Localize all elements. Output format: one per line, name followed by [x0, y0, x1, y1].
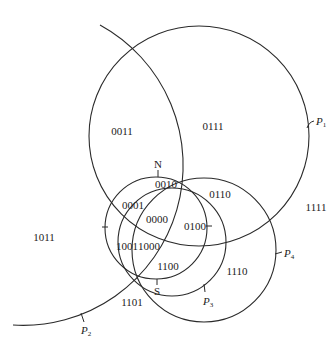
region-0001: 0001	[122, 199, 144, 211]
venn-region-diagram: P1 P2 P3 P4 N S 0011 0111 0010 0110 1111…	[0, 0, 333, 346]
region-0100: 0100	[184, 220, 207, 232]
region-1011: 1011	[33, 231, 55, 243]
label-p4: P4	[283, 247, 295, 261]
label-north: N	[154, 158, 162, 170]
region-1000: 1000	[138, 240, 161, 252]
region-1100: 1100	[157, 260, 179, 272]
region-0110: 0110	[209, 188, 231, 200]
region-1110: 1110	[226, 265, 248, 277]
region-0010: 0010	[155, 178, 178, 190]
region-0000: 0000	[146, 213, 169, 225]
label-p3: P3	[202, 295, 214, 309]
region-1101: 1101	[121, 296, 143, 308]
region-0011: 0011	[111, 125, 133, 137]
label-south: S	[154, 285, 160, 297]
region-0111: 0111	[202, 120, 223, 132]
label-p2: P2	[80, 324, 92, 338]
region-1001: 1001	[116, 240, 138, 252]
region-1111: 1111	[306, 201, 327, 213]
label-p1: P1	[315, 115, 327, 129]
